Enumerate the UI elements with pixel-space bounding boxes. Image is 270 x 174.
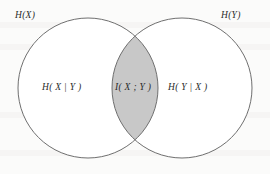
right-only-region-label: H( Y | X ) xyxy=(168,83,207,93)
intersection-region-label: I( X ; Y ) xyxy=(115,83,151,93)
right-circle-outer-label: H(Y) xyxy=(221,11,241,21)
left-only-region-label: H( X | Y ) xyxy=(42,83,81,93)
left-circle-outer-label: H(X) xyxy=(15,11,35,21)
venn-diagram-figure: H(X) H(Y) H( X | Y ) I( X ; Y ) H( Y | X… xyxy=(0,0,270,174)
